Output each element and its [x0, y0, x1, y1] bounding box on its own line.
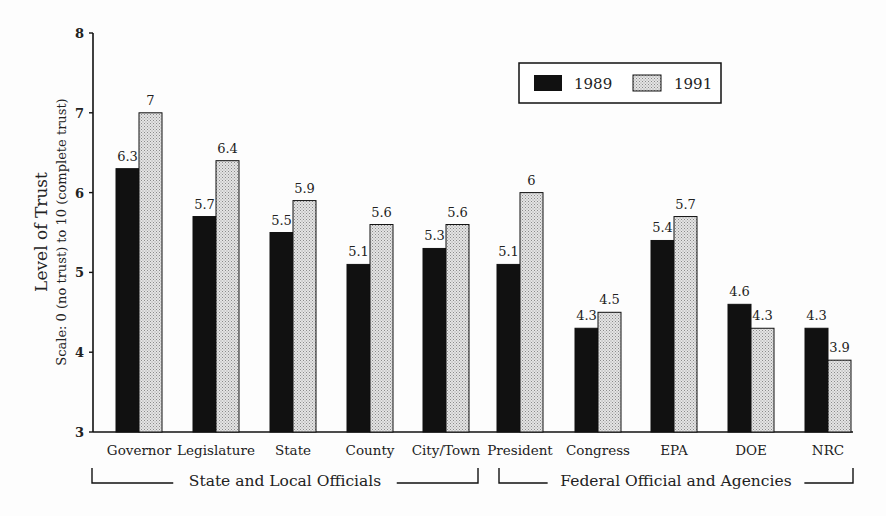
y-tick-label: 5 — [75, 265, 84, 280]
bar-1989-epa — [651, 240, 674, 432]
data-label: 4.3 — [576, 308, 597, 323]
bar-1989-state — [270, 233, 293, 433]
x-tick-label: City/Town — [412, 442, 481, 458]
group-bracket-right — [804, 468, 853, 483]
bar-1991-citytown — [446, 225, 469, 432]
data-label: 4.3 — [752, 308, 773, 323]
data-label: 5.6 — [447, 205, 468, 220]
x-tick-label: President — [487, 442, 553, 458]
bar-1991-congress — [598, 312, 621, 432]
x-tick-label: Congress — [566, 442, 630, 458]
data-label: 5.3 — [424, 228, 445, 243]
bar-1989-county — [347, 264, 370, 432]
y-axis-sublabel: Scale: 0 (no trust) to 10 (complete trus… — [54, 98, 69, 365]
x-tick-label: County — [346, 442, 395, 458]
x-tick-label: DOE — [735, 442, 767, 458]
data-label: 5.5 — [271, 213, 292, 228]
legend: 1989 1991 — [519, 63, 721, 103]
data-label: 4.5 — [599, 292, 620, 307]
x-tick-label: EPA — [660, 442, 688, 458]
bar-1991-state — [293, 201, 316, 432]
y-tick-label: 3 — [75, 425, 84, 440]
bar-chart: 345678 6.37Governor5.76.4Legislature5.55… — [0, 0, 886, 516]
y-tick-label: 8 — [75, 26, 84, 41]
legend-label-1991: 1991 — [674, 75, 712, 93]
y-tick-label: 6 — [75, 186, 84, 201]
data-label: 5.1 — [498, 244, 519, 259]
data-label: 5.7 — [194, 197, 215, 212]
group-bracket-left — [92, 468, 173, 483]
y-axis-title: Level of Trust Scale: 0 (no trust) to 10… — [31, 98, 69, 365]
group-bracket-right — [397, 468, 478, 483]
legend-swatch-1991 — [633, 75, 661, 91]
x-tick-label: State — [275, 442, 311, 458]
data-label: 4.6 — [729, 284, 750, 299]
legend-swatch-1989 — [534, 75, 562, 91]
group-label: Federal Official and Agencies — [560, 472, 791, 490]
bar-1991-doe — [751, 328, 774, 432]
data-label: 5.4 — [652, 220, 673, 235]
bar-1989-doe — [728, 304, 751, 432]
data-label: 6 — [527, 173, 535, 188]
y-axis-label: Level of Trust — [31, 172, 51, 292]
bar-1989-citytown — [423, 248, 446, 432]
data-label: 3.9 — [829, 340, 850, 355]
bar-1989-governor — [116, 169, 139, 432]
data-label: 4.3 — [806, 308, 827, 323]
bar-1991-county — [370, 225, 393, 432]
data-label: 6.3 — [117, 149, 138, 164]
data-label: 6.4 — [217, 141, 238, 156]
bar-1989-congress — [575, 328, 598, 432]
bar-1989-president — [497, 264, 520, 432]
bar-1991-governor — [139, 113, 162, 432]
x-tick-label: NRC — [812, 442, 844, 458]
y-tick-label: 4 — [75, 345, 84, 360]
group-label: State and Local Officials — [189, 472, 381, 490]
data-label: 5.1 — [348, 244, 369, 259]
bar-1991-nrc — [828, 360, 851, 432]
data-label: 5.9 — [294, 181, 315, 196]
bar-1991-legislature — [216, 161, 239, 432]
data-label: 5.6 — [371, 205, 392, 220]
bar-1991-president — [520, 193, 543, 432]
data-label: 5.7 — [675, 197, 696, 212]
group-bracket-left — [499, 468, 548, 483]
bar-1989-nrc — [805, 328, 828, 432]
bar-1991-epa — [674, 217, 697, 432]
x-tick-label: Legislature — [177, 442, 255, 458]
legend-label-1989: 1989 — [574, 75, 612, 93]
y-tick-label: 7 — [75, 106, 84, 121]
x-tick-label: Governor — [107, 442, 172, 458]
bar-1989-legislature — [193, 217, 216, 432]
data-label: 7 — [146, 93, 154, 108]
